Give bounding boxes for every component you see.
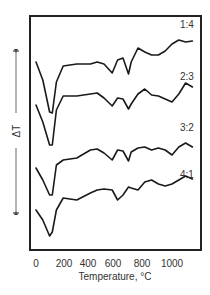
x-tick-400: 400 bbox=[80, 258, 97, 269]
curve-2-3 bbox=[36, 83, 192, 145]
series-label-4-1: 4:1 bbox=[180, 169, 194, 180]
x-tick-800: 800 bbox=[134, 258, 151, 269]
series-label-1-4: 1:4 bbox=[180, 19, 194, 30]
y-axis-label: ΔT bbox=[11, 125, 22, 138]
x-tick-1000: 1000 bbox=[161, 258, 184, 269]
dta-chart: ΔT 1:4 2:3 3:2 4:1 0 200 400 600 800 100… bbox=[0, 0, 210, 295]
x-axis-label: Temperature, °C bbox=[79, 271, 152, 282]
x-tick-600: 600 bbox=[105, 258, 122, 269]
curve-3-2 bbox=[36, 143, 192, 195]
curve-4-1 bbox=[36, 176, 192, 236]
y-axis-indicator: ΔT bbox=[11, 49, 22, 215]
x-tick-0: 0 bbox=[33, 258, 39, 269]
curves bbox=[36, 40, 192, 236]
series-label-3-2: 3:2 bbox=[180, 122, 194, 133]
series-label-2-3: 2:3 bbox=[180, 71, 194, 82]
x-tick-200: 200 bbox=[56, 258, 73, 269]
